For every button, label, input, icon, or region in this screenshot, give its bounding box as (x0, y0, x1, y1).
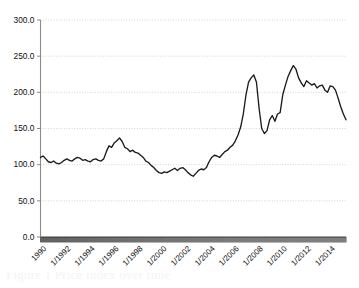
x-tick-label: 1/2006 (217, 244, 241, 268)
x-tick-label: 1/1992 (49, 244, 73, 268)
x-tick-label: 1/2014 (313, 244, 337, 268)
x-tick-label: 1/2012 (289, 244, 313, 268)
x-tick-label: 1/2010 (265, 244, 289, 268)
y-tick-label: 250.0 (14, 51, 35, 61)
data-series-line (41, 66, 347, 177)
caption-strip: Figure 1 Price index over time (0, 272, 359, 288)
y-tick-label: 0.0 (23, 232, 35, 242)
y-tick-label: 150.0 (14, 123, 35, 133)
y-tick-label: 50.0 (18, 196, 35, 206)
chart-svg: 0.050.0100.0150.0200.0250.0300.0 19901/1… (0, 0, 359, 270)
x-tick-label: 1/1996 (97, 244, 121, 268)
y-tick-label: 200.0 (14, 87, 35, 97)
x-tick-label: 1990 (29, 244, 48, 263)
line-chart: 0.050.0100.0150.0200.0250.0300.0 19901/1… (0, 0, 359, 270)
y-tick-label: 100.0 (14, 159, 35, 169)
x-tick-label: 1/2008 (241, 244, 265, 268)
y-tick-label: 300.0 (14, 15, 35, 25)
gridlines (41, 20, 347, 237)
x-tick-label: 1/2000 (145, 244, 169, 268)
x-tick-label: 1/2002 (169, 244, 193, 268)
x-minor-tick-marks (41, 237, 347, 243)
y-axis-tick-labels: 0.050.0100.0150.0200.0250.0300.0 (14, 15, 35, 242)
figure-caption: Figure 1 Price index over time (6, 272, 171, 283)
series-line-index (41, 66, 347, 177)
x-tick-label: 1/1994 (73, 244, 97, 268)
x-tick-label: 1/1998 (121, 244, 145, 268)
figure-container: 0.050.0100.0150.0200.0250.0300.0 19901/1… (0, 0, 359, 288)
x-axis-tick-labels: 19901/19921/19941/19961/19981/20001/2002… (29, 244, 337, 268)
x-tick-label: 1/2004 (193, 244, 217, 268)
